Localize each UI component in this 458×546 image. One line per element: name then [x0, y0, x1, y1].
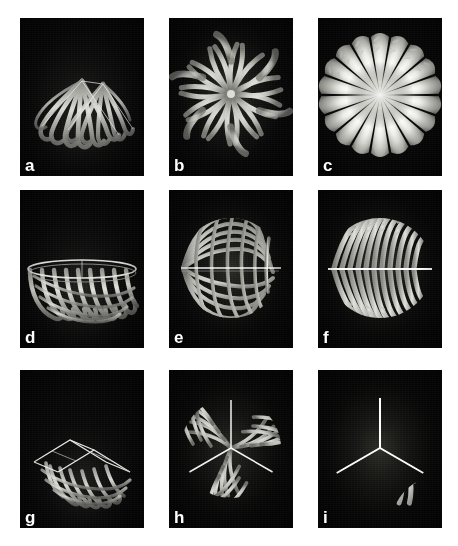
panel-label-f: f — [323, 329, 329, 346]
panel-c: c — [318, 18, 442, 176]
panel-e: e — [169, 190, 293, 348]
panel-i: i — [318, 370, 442, 528]
panel-label-i: i — [323, 509, 328, 526]
panel-label-h: h — [174, 509, 184, 526]
panel-a: a — [20, 18, 144, 176]
panel-g: g — [20, 370, 144, 528]
panel-d: d — [20, 190, 144, 348]
figure-panel-grid: a — [0, 0, 458, 546]
panel-e-graphic — [169, 190, 293, 348]
panel-b-graphic — [169, 18, 293, 176]
panel-label-b: b — [174, 157, 184, 174]
panel-g-graphic — [20, 370, 144, 528]
panel-h-graphic — [169, 370, 293, 528]
panel-label-d: d — [25, 329, 35, 346]
panel-f: f — [318, 190, 442, 348]
panel-label-e: e — [174, 329, 183, 346]
panel-i-graphic — [318, 370, 442, 528]
panel-h: h — [169, 370, 293, 528]
panel-label-a: a — [25, 157, 34, 174]
panel-f-graphic — [318, 190, 442, 348]
panel-d-graphic — [20, 190, 144, 348]
panel-c-graphic — [318, 18, 442, 176]
panel-b: b — [169, 18, 293, 176]
panel-label-c: c — [323, 157, 332, 174]
panel-label-g: g — [25, 509, 35, 526]
panel-a-graphic — [20, 18, 144, 176]
